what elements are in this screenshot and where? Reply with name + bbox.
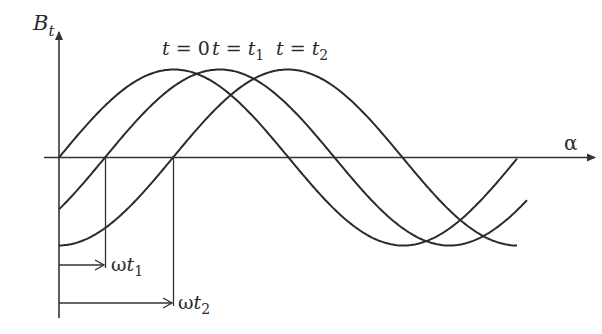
omega-t2-label: ωt2 bbox=[178, 291, 210, 317]
curve-label-t0: t = 0 bbox=[162, 37, 210, 59]
curve-label-t1: t = t1 bbox=[212, 37, 264, 63]
curve-label-t2: t = t2 bbox=[276, 37, 328, 63]
omega-t1-label: ωt1 bbox=[111, 253, 143, 279]
y-axis-label: Bt bbox=[32, 11, 55, 40]
x-axis-label: α bbox=[564, 131, 578, 155]
waveform-diagram: Bt α t = 0 t = t1 t = t2 ωt1 ωt2 bbox=[0, 0, 602, 334]
